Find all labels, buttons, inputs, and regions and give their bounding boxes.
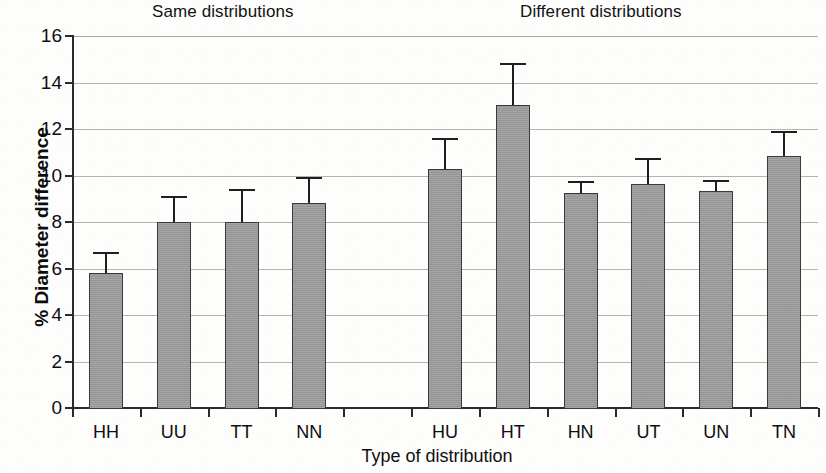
error-bar-stem-tt xyxy=(241,189,243,222)
gridline xyxy=(72,36,818,37)
y-tick-mark xyxy=(65,361,74,363)
x-axis-title: Type of distribution xyxy=(0,446,826,467)
x-tick-mark xyxy=(547,408,549,417)
x-tick-mark xyxy=(208,408,210,417)
x-tick-mark xyxy=(275,408,277,417)
y-tick-label: 10 xyxy=(41,165,62,187)
bar-ut xyxy=(631,184,665,409)
y-tick-mark xyxy=(65,175,74,177)
error-bar-cap-ut xyxy=(635,158,661,160)
error-bar-stem-ut xyxy=(647,158,649,184)
error-bar-cap-hh xyxy=(93,252,119,254)
error-bar-stem-hh xyxy=(105,252,107,273)
bar-tt xyxy=(225,222,259,409)
error-bar-cap-ht xyxy=(500,63,526,65)
x-tick-label-hh: HH xyxy=(93,422,119,443)
x-axis-title-text: Type of distribution xyxy=(313,446,512,467)
x-tick-mark xyxy=(72,408,74,417)
gridline xyxy=(72,129,818,130)
y-tick-label: 12 xyxy=(41,118,62,140)
y-tick-mark xyxy=(65,82,74,84)
y-tick-label: 14 xyxy=(41,72,62,94)
bar-tn xyxy=(767,156,801,409)
x-tick-mark xyxy=(682,408,684,417)
x-tick-label-tn: TN xyxy=(772,422,796,443)
y-tick-label: 4 xyxy=(51,304,62,326)
bar-nn xyxy=(292,203,326,409)
x-tick-mark xyxy=(750,408,752,417)
y-tick-label: 0 xyxy=(51,397,62,419)
bar-uu xyxy=(157,222,191,409)
error-bar-cap-uu xyxy=(161,196,187,198)
error-bar-stem-nn xyxy=(308,177,310,204)
error-bar-stem-tn xyxy=(783,131,785,155)
group-header-different-distributions: Different distributions xyxy=(520,2,682,22)
x-tick-label-ht: HT xyxy=(501,422,525,443)
error-bar-cap-nn xyxy=(296,177,322,179)
x-tick-mark xyxy=(818,408,820,417)
x-tick-label-nn: NN xyxy=(296,422,322,443)
y-tick-mark xyxy=(65,314,74,316)
x-tick-label-un: UN xyxy=(703,422,729,443)
x-tick-mark xyxy=(411,408,413,417)
error-bar-cap-tn xyxy=(771,131,797,133)
y-tick-label: 2 xyxy=(51,351,62,373)
y-tick-mark xyxy=(65,221,74,223)
error-bar-cap-un xyxy=(703,180,729,182)
error-bar-stem-hu xyxy=(444,138,446,168)
bar-hn xyxy=(564,193,598,409)
gridline xyxy=(72,83,818,84)
y-tick-label: 8 xyxy=(51,211,62,233)
plot-area: 1614121086420 HHUUTTNNHUHTHNUTUNTN xyxy=(72,36,818,408)
x-tick-label-hu: HU xyxy=(432,422,458,443)
y-tick-mark xyxy=(65,268,74,270)
x-tick-label-hn: HN xyxy=(568,422,594,443)
x-tick-mark xyxy=(343,408,345,417)
x-tick-label-uu: UU xyxy=(161,422,187,443)
bar-chart-figure: Same distributions Different distributio… xyxy=(0,0,826,473)
error-bar-cap-hn xyxy=(568,181,594,183)
y-tick-label: 16 xyxy=(41,25,62,47)
x-tick-label-tt: TT xyxy=(231,422,253,443)
x-tick-label-ut: UT xyxy=(636,422,660,443)
bar-un xyxy=(699,191,733,409)
x-tick-mark xyxy=(479,408,481,417)
error-bar-stem-ht xyxy=(512,63,514,105)
y-tick-label: 6 xyxy=(51,258,62,280)
group-header-same-distributions: Same distributions xyxy=(152,2,294,22)
error-bar-cap-hu xyxy=(432,138,458,140)
error-bar-cap-tt xyxy=(229,189,255,191)
bar-hh xyxy=(89,273,123,409)
x-tick-mark xyxy=(140,408,142,417)
x-tick-mark xyxy=(615,408,617,417)
bar-ht xyxy=(496,105,530,409)
bar-hu xyxy=(428,169,462,409)
y-tick-mark xyxy=(65,128,74,130)
error-bar-stem-uu xyxy=(173,196,175,222)
y-tick-mark xyxy=(65,35,74,37)
